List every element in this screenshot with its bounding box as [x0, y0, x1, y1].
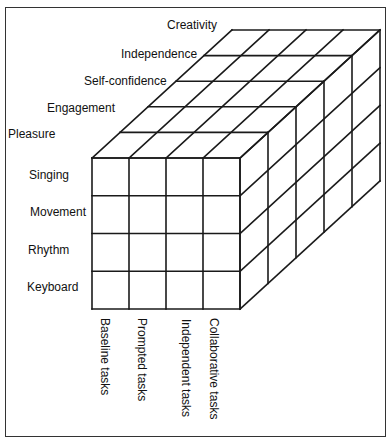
depth-label-creativity: Creativity: [167, 18, 217, 32]
column-label-baseline: Baseline tasks: [98, 318, 112, 395]
row-label-singing: Singing: [29, 168, 69, 182]
row-label-keyboard: Keyboard: [27, 280, 78, 294]
column-label-prompted: Prompted tasks: [135, 318, 149, 401]
row-label-movement: Movement: [30, 205, 86, 219]
depth-label-self-confidence: Self-confidence: [84, 74, 167, 88]
depth-label-independence: Independence: [121, 47, 197, 61]
column-label-independent: Independent tasks: [179, 319, 193, 417]
depth-label-engagement: Engagement: [47, 101, 115, 115]
column-label-collaborative: Collaborative tasks: [207, 318, 221, 419]
row-label-rhythm: Rhythm: [28, 243, 69, 257]
depth-label-pleasure: Pleasure: [8, 127, 55, 141]
grid-cube: [0, 0, 391, 443]
